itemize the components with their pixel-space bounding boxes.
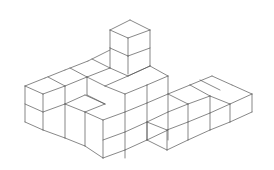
isometric-cube-diagram	[0, 0, 274, 170]
cube-edge	[128, 48, 150, 56]
cube-edge	[103, 132, 125, 140]
cube-edge	[190, 85, 210, 96]
cube-edge	[188, 130, 210, 140]
cube-edge	[147, 76, 168, 85]
cube-edge	[210, 96, 230, 104]
cube-edge	[25, 122, 43, 130]
cube-edge	[25, 78, 45, 86]
cube-edge	[125, 122, 147, 132]
cube-edge	[188, 96, 210, 104]
cube-edge	[65, 77, 87, 86]
cube-edge	[110, 48, 128, 56]
cube-edge	[210, 104, 230, 113]
cube-edge	[188, 113, 210, 122]
cube-edge	[150, 66, 168, 76]
cube-edge	[25, 104, 43, 112]
cube-edge	[88, 50, 110, 61]
cube-edge	[103, 150, 125, 158]
cube-edge	[210, 122, 230, 130]
cube-edge	[87, 77, 105, 86]
cube-edge	[200, 80, 220, 90]
cube-edge	[130, 20, 150, 30]
cube-edge	[105, 86, 125, 94]
cube-edge	[85, 112, 103, 120]
cube-edge	[147, 130, 168, 140]
cube-edge	[230, 112, 252, 122]
cube-edge	[48, 77, 65, 86]
cube-edge	[43, 86, 65, 94]
cube-edge	[85, 104, 105, 112]
cube-edge	[65, 104, 85, 112]
cube-edge	[167, 140, 188, 150]
cube-edge	[25, 86, 43, 94]
cube-edge	[85, 146, 103, 158]
cube-edge	[167, 122, 188, 130]
cube-edge	[65, 95, 85, 104]
cube-edge	[125, 140, 147, 150]
cube-edge	[110, 20, 130, 30]
cube-edge	[212, 76, 232, 85]
cube-edge	[103, 112, 125, 120]
cube-edge	[92, 59, 110, 68]
cube-edge	[147, 94, 168, 103]
cube-edge	[168, 85, 190, 94]
cube-edge	[168, 94, 188, 104]
cube-edge	[110, 68, 128, 76]
cube-edge	[147, 122, 167, 130]
cube-edge	[125, 103, 147, 112]
cube-edge	[232, 85, 252, 94]
cube-edge	[70, 68, 87, 77]
cube-edge	[128, 30, 150, 38]
cube-edge	[125, 85, 147, 94]
cube-edge	[43, 104, 65, 112]
cube-edge	[43, 130, 65, 138]
cube-edge	[87, 68, 110, 77]
cube-edge	[85, 95, 105, 104]
cube-edge	[105, 76, 128, 86]
cube-edge	[65, 61, 88, 70]
cube-edge	[230, 94, 252, 104]
cube-edge	[147, 140, 167, 150]
cube-edge	[65, 138, 85, 146]
cube-edge	[110, 30, 128, 38]
cube-edge	[168, 104, 188, 112]
cube-edge	[128, 66, 150, 76]
cube-drawing	[0, 0, 274, 170]
cube-edge	[147, 112, 168, 122]
